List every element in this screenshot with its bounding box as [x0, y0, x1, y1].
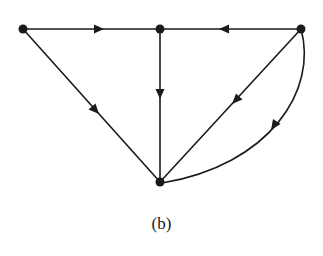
arrowhead-v1-v2 [94, 25, 104, 34]
arrowhead-v3-v2 [219, 25, 229, 34]
figure-caption: (b) [0, 214, 323, 234]
edge-v3-v4-curved [162, 29, 304, 183]
node-v4 [156, 178, 165, 187]
edge-v3-v4-straight [160, 29, 301, 182]
node-v3 [297, 25, 306, 34]
edge-v1-v4 [23, 29, 160, 182]
node-v1 [19, 25, 28, 34]
node-v2 [156, 25, 165, 34]
arrowhead-v2-v4 [156, 89, 165, 99]
